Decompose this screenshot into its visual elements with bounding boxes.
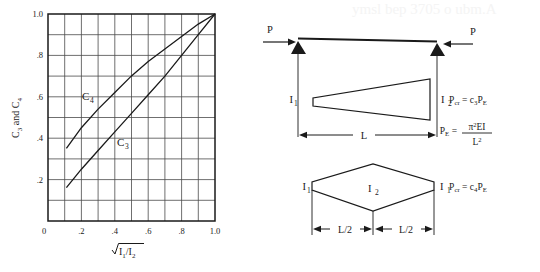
svg-text:.4: .4 — [37, 133, 44, 143]
formula-pcr-c4: Pcr = c4PE — [449, 182, 487, 193]
svg-text:4: 4 — [90, 96, 94, 105]
svg-text:1: 1 — [307, 186, 311, 195]
svg-text:.4: .4 — [112, 226, 119, 236]
svg-text:L/2: L/2 — [338, 224, 352, 235]
diamond-member-shape — [312, 164, 434, 211]
svg-text:L2: L2 — [472, 136, 481, 147]
half-span-dimension-left: L/2 — [313, 224, 372, 235]
svg-text:.8: .8 — [178, 226, 184, 236]
inertia-label-left-upper: I 1 — [290, 94, 299, 108]
svg-text:1: 1 — [294, 99, 298, 108]
buckling-coefficients-figure: ymsl bep 3705 o ubm.A — [0, 0, 540, 272]
svg-text:C3 and C4: C3 and C4 — [10, 98, 24, 138]
svg-text:1.0: 1.0 — [32, 9, 43, 19]
chart-plot-area: C 4 C 3 0 .2 .4 .6 .8 1.0 1.0 .8 .6 .4 .… — [10, 9, 220, 260]
formula-euler-load: PE = π2EI L2 — [440, 121, 492, 147]
formula-pcr-c3: Pcr = c3PE — [449, 95, 487, 106]
chart-y-axis-label: C3 and C4 — [10, 98, 24, 138]
load-arrow-left — [263, 39, 296, 46]
svg-text:.8: .8 — [37, 50, 43, 60]
svg-text:π2EI: π2EI — [468, 121, 485, 132]
svg-text:2: 2 — [375, 188, 379, 197]
chart-x-axis-label: I1/I2 — [112, 244, 144, 260]
tapered-column-diagram: P P I 1 I 2 L — [263, 24, 492, 147]
curve-c4 — [66, 14, 215, 148]
diamond-column-diagram: I 1 I 2 I 1 L/2 L/2 — [303, 164, 487, 235]
support-triangle-right — [430, 43, 445, 56]
load-label-left: P — [267, 24, 273, 35]
svg-text:I: I — [303, 181, 307, 192]
svg-text:.2: .2 — [78, 226, 84, 236]
svg-text:I: I — [441, 94, 445, 105]
chart-xtick-labels: 0 .2 .4 .6 .8 1.0 — [42, 226, 220, 236]
svg-text:I1/I2: I1/I2 — [119, 246, 136, 260]
svg-text:Pcr = c4PE: Pcr = c4PE — [449, 182, 487, 193]
svg-text:1.0: 1.0 — [210, 226, 221, 236]
svg-text:Pcr = c3PE: Pcr = c3PE — [449, 95, 487, 106]
svg-text:C: C — [117, 136, 124, 148]
load-label-right: P — [470, 26, 476, 37]
svg-text:L: L — [361, 130, 367, 141]
span-dimension-line: L — [299, 130, 436, 141]
beam-top-line — [298, 39, 437, 42]
curve-label-c4: C 4 — [82, 90, 94, 105]
chart-ytick-labels: 1.0 .8 .6 .4 .2 — [32, 9, 43, 185]
inertia-label-center-lower: I 2 — [368, 183, 379, 197]
svg-text:C: C — [82, 90, 89, 102]
svg-text:.6: .6 — [37, 92, 43, 102]
scan-ghost-text: ymsl bep 3705 o ubm.A — [352, 1, 497, 17]
svg-text:I: I — [440, 181, 444, 192]
svg-text:.2: .2 — [37, 175, 43, 185]
load-arrow-right — [443, 41, 473, 48]
svg-text:PE =: PE = — [440, 126, 457, 137]
svg-text:I: I — [290, 94, 294, 105]
inertia-label-left-lower: I 1 — [303, 181, 312, 195]
tapered-member-shape — [313, 79, 430, 120]
svg-text:.6: .6 — [145, 226, 151, 236]
svg-text:I: I — [368, 183, 372, 194]
half-span-dimension-right: L/2 — [375, 224, 433, 235]
svg-text:L/2: L/2 — [399, 224, 413, 235]
svg-text:0: 0 — [42, 226, 46, 236]
svg-text:3: 3 — [125, 142, 129, 151]
